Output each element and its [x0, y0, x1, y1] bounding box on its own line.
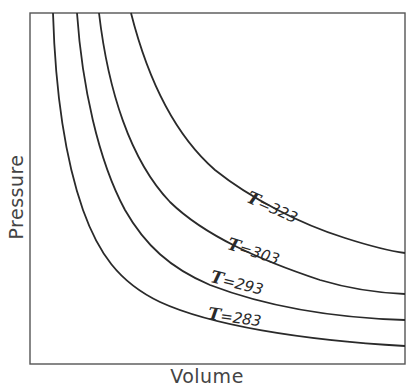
x-axis-label: Volume: [160, 365, 254, 387]
plot-area: [0, 0, 416, 392]
pv-isotherm-chart: T=323 T=303 T=293 T=283 Volume Pressure: [0, 0, 416, 392]
y-axis-label: Pressure: [5, 147, 27, 247]
isotherm-323: [131, 13, 405, 253]
